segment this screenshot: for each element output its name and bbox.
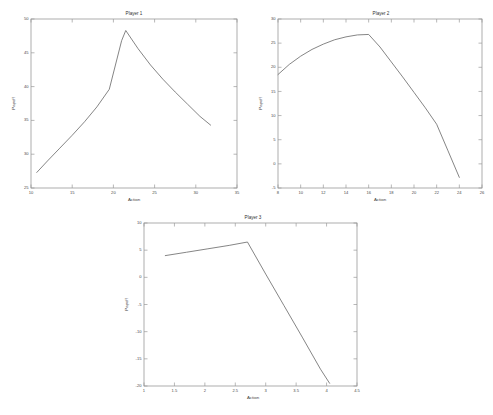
y-axis-title-player-1: Payoff [11,97,16,110]
x-tick-label: 8 [277,190,280,195]
y-tick-label: -5 [138,302,142,307]
y-tick-label: 5 [273,137,276,142]
x-tick-label: 15 [70,190,75,195]
x-tick-label: 3 [265,388,268,393]
plot-frame-player-2 [278,19,482,188]
x-tick-label: 22 [434,190,439,195]
x-tick-label: 12 [321,190,326,195]
y-tick-label: 0 [273,161,276,166]
chart-panel-player-3: Player 3 [120,205,373,415]
x-ticks-player-2 [278,19,482,188]
x-tick-label: 26 [480,190,485,195]
x-tick-label: 4 [325,388,328,393]
y-tick-label: 30 [271,16,276,21]
figure-canvas: Player 1 [0,0,493,415]
chart-title-player-1: Player 1 [126,11,143,16]
x-tick-label: 16 [366,190,371,195]
x-tick-label: 2.5 [232,388,238,393]
data-series-player-1 [37,30,211,172]
y-tick-label: 10 [137,220,142,225]
y-tick-label: -5 [272,185,276,190]
y-tick-label: 10 [271,113,276,118]
y-axis-title-player-3: Payoff [124,298,129,311]
chart-title-player-3: Player 3 [245,215,262,220]
y-tick-label: 30 [24,151,29,156]
chart-title-player-2: Player 2 [373,11,390,16]
y-ticks-player-2 [278,19,482,188]
y-tick-label: 50 [24,16,29,21]
x-tick-label: 35 [235,190,240,195]
chart-panel-player-1: Player 1 [0,0,246,208]
x-tick-labels-player-3: 1 1.5 2 2.5 3 3.5 4 4.5 [143,388,361,393]
y-tick-label: 0 [139,274,142,279]
x-tick-label: 14 [344,190,349,195]
y-tick-labels-player-1: 25 30 35 40 45 50 [24,16,29,190]
chart-panel-player-2: Player 2 [246,0,493,208]
x-tick-label: 4.5 [354,388,360,393]
x-tick-label: 10 [29,190,34,195]
x-tick-label: 20 [111,190,116,195]
y-tick-label: 45 [24,50,29,55]
y-tick-label: 20 [271,64,276,69]
x-tick-label: 1.5 [172,388,178,393]
y-tick-labels-player-2: -5 0 5 10 15 20 25 30 [271,16,276,190]
data-series-player-3 [165,242,329,383]
y-tick-label: 35 [24,117,29,122]
y-tick-label: -15 [136,356,143,361]
x-axis-title-player-3: Action [247,395,260,400]
y-tick-label: 25 [24,185,29,190]
data-series-player-2 [278,34,459,177]
chart-svg-player-1: Player 1 [0,0,246,208]
y-tick-label: 25 [271,40,276,45]
x-tick-label: 18 [389,190,394,195]
y-ticks-player-1 [31,19,237,188]
y-axis-title-player-2: Payoff [258,97,263,110]
x-tick-label: 2 [204,388,207,393]
x-tick-labels-player-1: 10 15 20 25 30 35 [29,190,240,195]
y-tick-label: 40 [24,84,29,89]
x-axis-title-player-1: Action [128,197,141,202]
y-tick-label: 5 [139,247,142,252]
x-tick-labels-player-2: 8 10 12 14 16 18 20 22 24 26 [277,190,485,195]
x-tick-label: 30 [194,190,199,195]
x-ticks-player-1 [31,19,237,188]
chart-svg-player-3: Player 3 [120,205,373,415]
y-tick-labels-player-3: -20 -15 -10 -5 0 5 10 [136,220,143,388]
x-tick-label: 24 [457,190,462,195]
y-tick-label: 15 [271,89,276,94]
x-tick-label: 1 [143,388,146,393]
x-tick-label: 3.5 [293,388,299,393]
chart-svg-player-2: Player 2 [246,0,493,208]
plot-frame-player-1 [31,19,237,188]
x-tick-label: 10 [298,190,303,195]
y-tick-label: -10 [136,329,143,334]
x-tick-label: 20 [412,190,417,195]
x-axis-title-player-2: Action [374,197,387,202]
y-tick-label: -20 [136,383,143,388]
x-tick-label: 25 [152,190,157,195]
